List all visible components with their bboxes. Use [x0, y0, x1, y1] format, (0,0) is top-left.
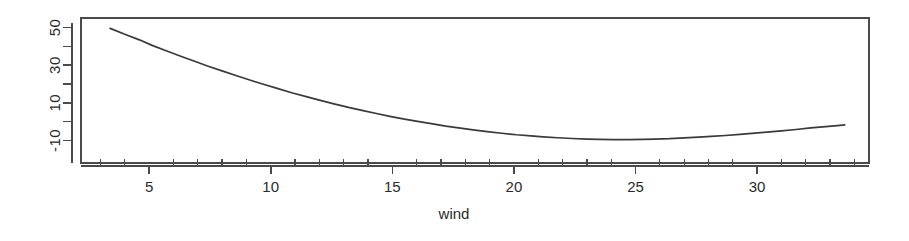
x-tick-label: 15	[384, 178, 401, 195]
series-line-partial-effect-of-wind	[110, 28, 844, 139]
y-axis-tick-labels: 503010-10	[46, 19, 63, 152]
y-tick-label: 10	[46, 94, 63, 112]
x-tick-label: 10	[262, 178, 279, 195]
y-tick-label: 30	[46, 56, 63, 74]
x-axis-title: wind	[438, 205, 470, 222]
plot-container: 503010-10 51015202530 wind	[0, 0, 909, 241]
x-axis-tick-labels: 51015202530	[145, 178, 766, 195]
x-tick-label: 20	[506, 178, 523, 195]
x-tick-label: 25	[627, 178, 644, 195]
y-tick-label: -10	[46, 129, 63, 152]
chart-canvas: 503010-10 51015202530 wind	[0, 0, 909, 241]
x-tick-label: 30	[749, 178, 766, 195]
plot-frame	[72, 18, 869, 166]
y-axis-ticks	[63, 27, 72, 140]
y-tick-label: 50	[46, 19, 63, 37]
data-series-curve	[110, 28, 844, 139]
plot-box-outline	[81, 18, 869, 163]
x-tick-label: 5	[145, 178, 153, 195]
